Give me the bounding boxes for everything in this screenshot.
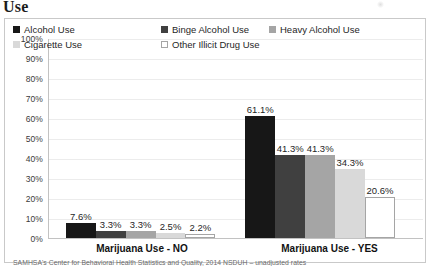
legend-row: Alcohol UseBinge Alcohol UseHeavy Alcoho… xyxy=(13,22,373,37)
bar-value-label: 34.3% xyxy=(337,157,364,168)
y-axis-tick-label: 70% xyxy=(26,94,43,104)
scan-artifact xyxy=(377,1,384,8)
y-axis-tick-label: 50% xyxy=(26,134,43,144)
legend-label: Heavy Alcohol Use xyxy=(280,24,360,35)
bar-wrap: 3.3% xyxy=(126,39,156,238)
legend-item-cigarette-use[interactable]: Cigarette Use xyxy=(13,39,82,50)
bar-group-marijuana-no: 7.6%3.3%3.3%2.5%2.2% xyxy=(66,39,216,238)
bar-group-marijuana-yes: 61.1%41.3%41.3%34.3%20.6% xyxy=(245,39,395,238)
bar-alcohol-use[interactable] xyxy=(245,116,275,238)
legend-label: Binge Alcohol Use xyxy=(172,24,249,35)
bar-alcohol-use[interactable] xyxy=(66,223,96,238)
chart-frame: 100%90%80%70%60%50%40%30%20%10%0% 7.6%3.… xyxy=(4,18,426,263)
bar-wrap: 2.2% xyxy=(185,39,215,238)
legend-item-alcohol-use[interactable]: Alcohol Use xyxy=(13,24,75,35)
y-axis-tick-label: 40% xyxy=(26,154,43,164)
bars: 61.1%41.3%41.3%34.3%20.6% xyxy=(245,39,395,238)
bar-value-label: 2.5% xyxy=(160,221,182,232)
plot-area: 7.6%3.3%3.3%2.5%2.2% 61.1%41.3%41.3%34.3… xyxy=(48,39,423,239)
legend-swatch-icon xyxy=(161,41,168,48)
legend-item-heavy-alcohol-use[interactable]: Heavy Alcohol Use xyxy=(269,24,360,35)
bar-value-label: 41.3% xyxy=(277,143,304,154)
y-axis-tick-label: 90% xyxy=(26,54,43,64)
bar-cigarette-use[interactable] xyxy=(156,233,186,238)
legend-row: Cigarette UseOther Illicit Drug Use xyxy=(13,37,373,52)
bar-wrap: 61.1% xyxy=(245,39,275,238)
y-axis-tick-label: 30% xyxy=(26,174,43,184)
bars: 7.6%3.3%3.3%2.5%2.2% xyxy=(66,39,216,238)
bar-other-illicit-drug-use[interactable] xyxy=(365,197,395,238)
y-axis: 100%90%80%70%60%50%40%30%20%10%0% xyxy=(5,39,46,239)
bar-wrap: 2.5% xyxy=(156,39,186,238)
y-axis-tick-label: 0% xyxy=(31,234,44,244)
y-axis-tick-label: 10% xyxy=(26,214,43,224)
category-label-marijuana-yes: Marijuana Use - YES xyxy=(236,243,423,254)
legend-item-other-illicit-drug-use[interactable]: Other Illicit Drug Use xyxy=(161,39,260,50)
bar-wrap: 3.3% xyxy=(96,39,126,238)
bar-wrap: 41.3% xyxy=(275,39,305,238)
bar-wrap: 20.6% xyxy=(365,39,395,238)
bar-wrap: 34.3% xyxy=(335,39,365,238)
bar-value-label: 20.6% xyxy=(366,185,393,196)
y-axis-tick-label: 60% xyxy=(26,114,43,124)
y-axis-tick-label: 80% xyxy=(26,74,43,84)
y-axis-tick-label: 20% xyxy=(26,194,43,204)
page-title: Use xyxy=(3,0,28,16)
legend-swatch-icon xyxy=(13,26,20,33)
bar-value-label: 2.2% xyxy=(190,222,212,233)
bar-value-label: 3.3% xyxy=(100,219,122,230)
bar-binge-alcohol-use[interactable] xyxy=(275,155,305,238)
legend-swatch-icon xyxy=(161,26,168,33)
source-footnote: SAMHSA's Center for Behavioral Health St… xyxy=(13,259,306,266)
bar-heavy-alcohol-use[interactable] xyxy=(126,231,156,238)
bar-wrap: 41.3% xyxy=(305,39,335,238)
bar-binge-alcohol-use[interactable] xyxy=(96,231,126,238)
legend-swatch-icon xyxy=(269,26,276,33)
legend-item-binge-alcohol-use[interactable]: Binge Alcohol Use xyxy=(161,24,249,35)
bar-heavy-alcohol-use[interactable] xyxy=(305,155,335,238)
legend-label: Other Illicit Drug Use xyxy=(172,39,260,50)
category-label-marijuana-no: Marijuana Use - NO xyxy=(48,243,236,254)
legend-label: Alcohol Use xyxy=(24,24,75,35)
bar-cigarette-use[interactable] xyxy=(335,169,365,238)
bar-value-label: 3.3% xyxy=(130,219,152,230)
bar-value-label: 41.3% xyxy=(307,143,334,154)
legend-label: Cigarette Use xyxy=(24,39,82,50)
bar-value-label: 7.6% xyxy=(70,211,92,222)
bar-value-label: 61.1% xyxy=(247,104,274,115)
bar-wrap: 7.6% xyxy=(66,39,96,238)
legend-swatch-icon xyxy=(13,41,20,48)
chart-legend: Alcohol UseBinge Alcohol UseHeavy Alcoho… xyxy=(13,22,373,52)
bar-other-illicit-drug-use[interactable] xyxy=(185,234,215,238)
